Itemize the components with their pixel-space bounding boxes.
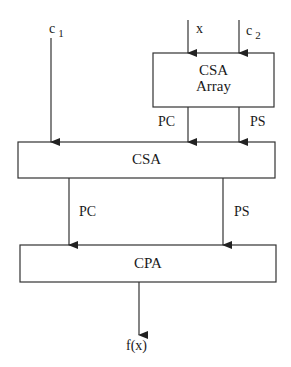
- diagram-canvas: [0, 0, 291, 367]
- csa-text: CSA: [18, 152, 275, 168]
- pc-label-bottom: PC: [79, 205, 96, 219]
- c1-subscript: 1: [58, 27, 64, 39]
- c1-base: c: [49, 21, 55, 36]
- csa-array-line2: Array: [153, 79, 274, 95]
- ps-label-top: PS: [250, 115, 266, 129]
- cpa-text: CPA: [20, 256, 276, 272]
- c2-subscript: 2: [255, 29, 261, 41]
- c2-base: c: [246, 23, 252, 38]
- csa-array-text: CSA Array: [153, 63, 274, 95]
- ps-label-bottom: PS: [234, 205, 250, 219]
- x-label: x: [196, 22, 203, 36]
- output-label: f(x): [126, 339, 147, 353]
- csa-array-line1: CSA: [153, 63, 274, 79]
- c2-label: c2: [246, 24, 261, 38]
- x-text: x: [196, 21, 203, 36]
- c1-label: c1: [49, 22, 64, 36]
- pc-label-top: PC: [158, 115, 175, 129]
